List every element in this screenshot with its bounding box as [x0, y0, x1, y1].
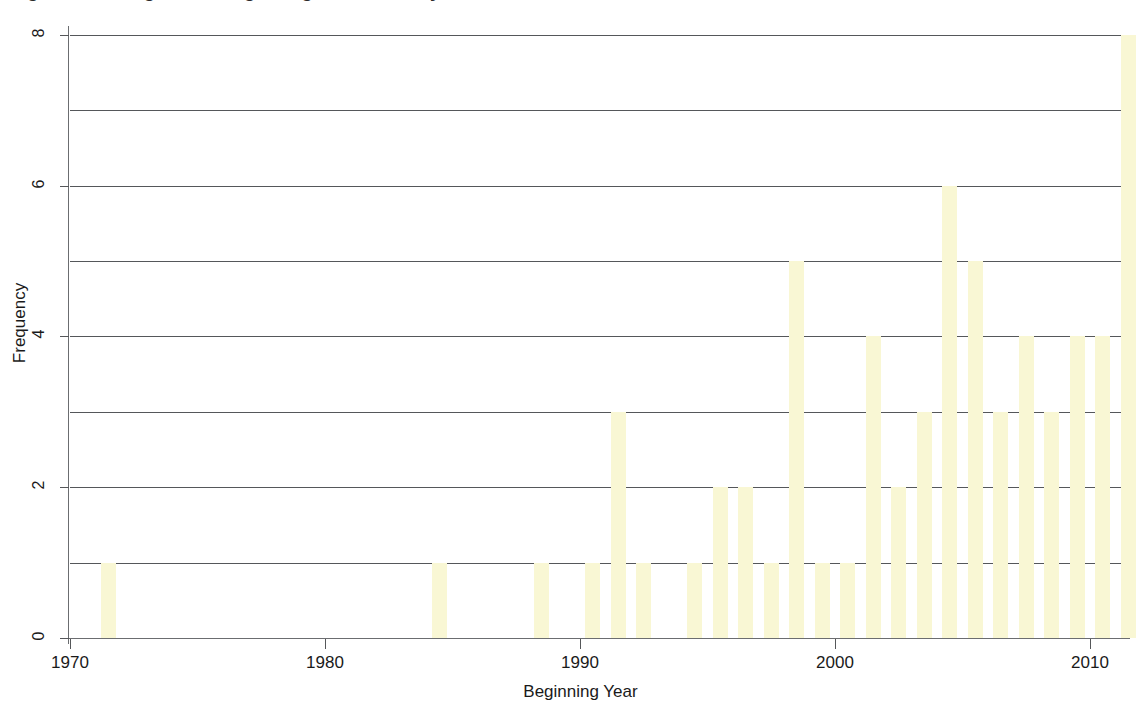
y-tick-label-2: 2 [22, 476, 56, 494]
y-tick-label-8: 8 [22, 24, 56, 42]
bar [891, 487, 906, 638]
bar [815, 563, 830, 638]
y-tick-0 [60, 638, 69, 639]
x-tick-2000 [835, 639, 836, 649]
y-tick-2 [60, 487, 69, 488]
bar [789, 261, 804, 638]
bar [1019, 336, 1034, 638]
x-tick-1980 [325, 639, 326, 649]
bar [1044, 412, 1059, 638]
x-axis-title: Beginning Year [68, 682, 1093, 702]
bar [687, 563, 702, 638]
bar [101, 563, 116, 638]
figure-title: Figure 3. Histogram of Beginning Year of… [0, 0, 1130, 6]
x-tick-label-2010: 2010 [1050, 653, 1130, 673]
bar [738, 487, 753, 638]
x-tick-label-1970: 1970 [30, 653, 110, 673]
y-tick-label-text: 4 [30, 330, 48, 339]
bar [1121, 35, 1136, 638]
bar [968, 261, 983, 638]
bar [993, 412, 1008, 638]
bar [585, 563, 600, 638]
y-tick-label-4: 4 [22, 325, 56, 343]
x-tick-label-2000: 2000 [795, 653, 875, 673]
y-tick-8 [60, 35, 69, 36]
bar [636, 563, 651, 638]
bar [713, 487, 728, 638]
bar [942, 186, 957, 638]
bar [866, 336, 881, 638]
bar [840, 563, 855, 638]
bar [1095, 336, 1110, 638]
y-tick-label-text: 2 [30, 481, 48, 490]
y-tick-label-0: 0 [22, 627, 56, 645]
y-tick-label-text: 8 [30, 28, 48, 37]
x-tick-1990 [580, 639, 581, 649]
x-tick-label-1980: 1980 [285, 653, 365, 673]
x-tick-label-1990: 1990 [540, 653, 620, 673]
bars-layer [0, 35, 1130, 638]
bar [1070, 336, 1085, 638]
x-axis-spine [68, 638, 1130, 639]
x-tick-2010 [1090, 639, 1091, 649]
y-tick-label-6: 6 [22, 175, 56, 193]
y-tick-4 [60, 336, 69, 337]
bar [534, 563, 549, 638]
bar [917, 412, 932, 638]
y-tick-6 [60, 186, 69, 187]
x-tick-1970 [70, 639, 71, 649]
y-tick-label-text: 6 [30, 179, 48, 188]
bar [432, 563, 447, 638]
y-tick-label-text: 0 [30, 632, 48, 641]
bar [611, 412, 626, 638]
bar [764, 563, 779, 638]
